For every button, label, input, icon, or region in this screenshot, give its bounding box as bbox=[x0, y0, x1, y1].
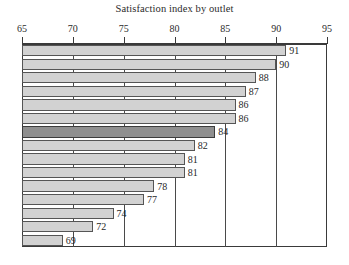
bar-highlighted bbox=[22, 126, 215, 137]
bar bbox=[22, 45, 286, 56]
bar bbox=[22, 59, 276, 70]
bar bbox=[22, 153, 185, 164]
bar-value-label: 81 bbox=[188, 168, 198, 178]
bar bbox=[22, 140, 195, 151]
bar bbox=[22, 180, 154, 191]
x-axis-tick-labels: 65707580859095 bbox=[0, 23, 349, 36]
bar-row bbox=[22, 167, 327, 178]
x-tick-label-90: 90 bbox=[271, 23, 281, 34]
x-tick-label-85: 85 bbox=[220, 23, 230, 34]
bar-row bbox=[22, 221, 327, 232]
x-tick-label-70: 70 bbox=[68, 23, 78, 34]
bar-value-label: 88 bbox=[259, 73, 269, 83]
bar bbox=[22, 208, 114, 219]
bar bbox=[22, 72, 256, 83]
satisfaction-bar-chart: Satisfaction index by outlet 65707580859… bbox=[0, 0, 349, 265]
bar-value-label: 69 bbox=[66, 236, 76, 246]
bar-value-label: 86 bbox=[239, 100, 249, 110]
bar bbox=[22, 99, 236, 110]
bar-value-label: 81 bbox=[188, 155, 198, 165]
bar-row bbox=[22, 72, 327, 83]
bar-value-label: 90 bbox=[279, 60, 289, 70]
x-tick-label-75: 75 bbox=[119, 23, 129, 34]
bar-value-label: 74 bbox=[117, 209, 127, 219]
bar bbox=[22, 235, 63, 246]
bar-value-label: 78 bbox=[157, 182, 167, 192]
bar-value-label: 82 bbox=[198, 141, 208, 151]
x-tick-label-65: 65 bbox=[17, 23, 27, 34]
bar bbox=[22, 167, 185, 178]
bar-value-label: 72 bbox=[96, 222, 106, 232]
bar-row bbox=[22, 113, 327, 124]
bar-value-label: 91 bbox=[289, 46, 299, 56]
bar bbox=[22, 113, 236, 124]
x-tick-label-80: 80 bbox=[170, 23, 180, 34]
chart-title: Satisfaction index by outlet bbox=[0, 3, 349, 14]
bar bbox=[22, 194, 144, 205]
bar-row bbox=[22, 86, 327, 97]
bar-value-label: 84 bbox=[218, 127, 228, 137]
bar-row bbox=[22, 45, 327, 56]
bar-row bbox=[22, 153, 327, 164]
bar-row bbox=[22, 180, 327, 191]
bar bbox=[22, 86, 246, 97]
bar-row bbox=[22, 99, 327, 110]
bar-value-label: 86 bbox=[239, 114, 249, 124]
bar-row bbox=[22, 140, 327, 151]
bar-row bbox=[22, 208, 327, 219]
plot-area: 919088878686848281817877747269 bbox=[22, 44, 327, 247]
bar-value-label: 77 bbox=[147, 195, 157, 205]
x-tick-label-95: 95 bbox=[322, 23, 332, 34]
bar bbox=[22, 221, 93, 232]
bar-row bbox=[22, 126, 327, 137]
bar-value-label: 87 bbox=[249, 87, 259, 97]
bar-row bbox=[22, 194, 327, 205]
